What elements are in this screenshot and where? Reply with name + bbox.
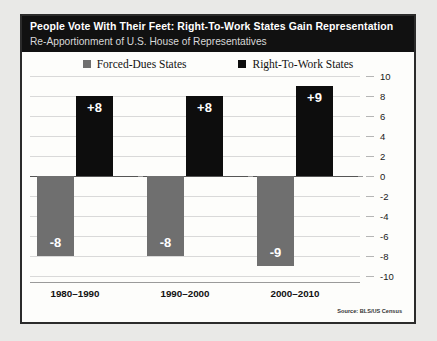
- x-axis-label: 2000–2010: [270, 288, 319, 299]
- y-axis-tick: [366, 156, 374, 157]
- legend-item-forced-dues: Forced-Dues States: [83, 58, 187, 70]
- gridline: [30, 256, 360, 257]
- bar-negative: -9: [257, 176, 294, 266]
- y-axis-tick: [366, 116, 374, 117]
- y-axis-tick-label: 2: [380, 151, 385, 162]
- chart-legend: Forced-Dues States Right-To-Work States: [22, 54, 414, 74]
- x-axis-tick: [248, 176, 253, 177]
- y-axis-tick: [366, 196, 374, 197]
- x-axis-tick: [138, 176, 143, 177]
- y-axis-tick-label: 4: [380, 131, 385, 142]
- y-axis-tick: [366, 216, 374, 217]
- y-axis-tick-label: -8: [380, 251, 388, 262]
- legend-label-forced-dues: Forced-Dues States: [97, 58, 187, 70]
- legend-swatch-icon-forced-dues: [83, 60, 91, 68]
- gridline: [30, 196, 360, 197]
- y-axis-tick-label: 8: [380, 91, 385, 102]
- y-axis-tick: [366, 76, 374, 77]
- x-axis-line: [30, 282, 360, 283]
- y-axis-tick-label: -10: [380, 271, 394, 282]
- bar-value-label: -8: [37, 235, 74, 250]
- y-axis-tick-label: 0: [380, 171, 385, 182]
- bar-negative: -8: [37, 176, 74, 256]
- y-axis-tick: [366, 176, 374, 177]
- y-axis-tick-label: -6: [380, 231, 388, 242]
- bar-value-label: -8: [147, 235, 184, 250]
- y-axis-tick: [366, 276, 374, 277]
- x-axis-tick: [358, 176, 363, 177]
- y-axis: 1086420-2-4-6-8-10: [366, 76, 410, 276]
- bar-negative: -8: [147, 176, 184, 256]
- y-axis-tick-label: -4: [380, 211, 388, 222]
- bar-value-label: +8: [186, 100, 223, 115]
- y-axis-tick: [366, 236, 374, 237]
- x-axis-label: 1980–1990: [50, 288, 99, 299]
- plot-area: -8+8-8+8-9+9: [30, 76, 360, 276]
- y-axis-tick: [366, 136, 374, 137]
- plot-wrapper: -8+8-8+8-9+9 1086420-2-4-6-8-10 1980–199…: [30, 76, 406, 316]
- y-axis-tick: [366, 96, 374, 97]
- gridline: [30, 276, 360, 277]
- chart-subtitle: Re-Apportionment of U.S. House of Repres…: [30, 34, 414, 49]
- chart-title: People Vote With Their Feet: Right-To-Wo…: [30, 19, 414, 34]
- bar-value-label: +9: [296, 90, 333, 105]
- source-note: Source: BLS/US Census: [337, 308, 402, 314]
- y-axis-tick-label: 6: [380, 111, 385, 122]
- gridline: [30, 236, 360, 237]
- bar-positive: +9: [296, 86, 333, 176]
- bar-value-label: +8: [76, 100, 113, 115]
- gridline: [30, 216, 360, 217]
- bar-value-label: -9: [257, 245, 294, 260]
- x-axis-labels: 1980–19901990–20002000–2010: [30, 288, 360, 306]
- chart-card: People Vote With Their Feet: Right-To-Wo…: [20, 14, 416, 324]
- chart-header: People Vote With Their Feet: Right-To-Wo…: [22, 16, 414, 52]
- legend-item-right-to-work: Right-To-Work States: [238, 58, 353, 70]
- gridline: [30, 76, 360, 77]
- y-axis-tick-label: 10: [380, 71, 391, 82]
- y-axis-tick-label: -2: [380, 191, 388, 202]
- y-axis-tick: [366, 256, 374, 257]
- legend-label-right-to-work: Right-To-Work States: [252, 58, 353, 70]
- x-axis-label: 1990–2000: [160, 288, 209, 299]
- bar-positive: +8: [76, 96, 113, 176]
- zero-baseline: [30, 176, 360, 177]
- legend-swatch-icon-right-to-work: [238, 60, 246, 68]
- bar-positive: +8: [186, 96, 223, 176]
- chart-screenshot: People Vote With Their Feet: Right-To-Wo…: [0, 0, 437, 341]
